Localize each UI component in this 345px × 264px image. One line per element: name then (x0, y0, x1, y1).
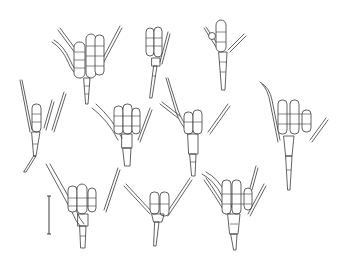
specimen-6 (160, 78, 230, 176)
specimen-10 (202, 166, 266, 250)
illustration-plate (0, 0, 345, 264)
specimen-8 (46, 164, 120, 248)
specimen-2 (146, 27, 170, 98)
specimen-3 (204, 20, 246, 90)
conidia-drawing (0, 0, 345, 264)
specimen-1 (52, 26, 122, 104)
specimen-5 (92, 104, 152, 166)
specimen-9 (124, 178, 192, 246)
specimen-4 (20, 80, 66, 172)
specimen-7 (260, 82, 328, 190)
